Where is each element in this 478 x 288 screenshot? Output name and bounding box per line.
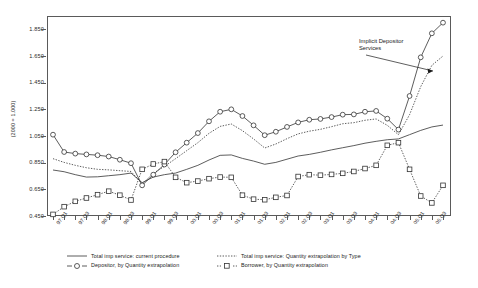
- legend-key-solid-line: [66, 252, 88, 260]
- data-point-marker: [140, 183, 145, 188]
- data-point-marker: [385, 116, 390, 121]
- data-point-marker: [441, 183, 446, 188]
- data-point-marker: [363, 109, 368, 114]
- series-0: [53, 125, 443, 183]
- data-point-marker: [218, 175, 223, 180]
- data-point-marker: [195, 131, 200, 136]
- chart-legend: Total imp service: current procedureTota…: [66, 252, 406, 280]
- data-point-marker: [285, 125, 290, 130]
- data-point-marker: [151, 162, 156, 167]
- data-point-marker: [407, 94, 412, 99]
- data-point-marker: [274, 195, 279, 200]
- data-point-marker: [329, 115, 334, 120]
- data-point-marker: [273, 129, 278, 134]
- data-point-marker: [340, 112, 345, 117]
- data-point-marker: [340, 171, 345, 176]
- series-line: [53, 125, 443, 183]
- data-point-marker: [251, 123, 256, 128]
- data-point-marker: [418, 194, 423, 199]
- data-point-marker: [307, 117, 312, 122]
- data-point-marker: [73, 151, 78, 156]
- data-point-marker: [385, 143, 390, 148]
- data-point-marker: [240, 193, 245, 198]
- data-point-marker: [396, 140, 401, 145]
- data-point-marker: [129, 198, 134, 203]
- data-point-marker: [196, 179, 201, 184]
- data-point-marker: [285, 193, 290, 198]
- legend-label: Total imp service: Quantity extrapolatio…: [241, 253, 361, 259]
- data-point-marker: [329, 172, 334, 177]
- series-1: [53, 56, 443, 184]
- annotation-implicit-depositor-services: Implicit Depositor Services: [359, 38, 403, 53]
- data-point-marker: [95, 153, 100, 158]
- data-point-marker: [184, 140, 189, 145]
- data-point-marker: [418, 55, 423, 60]
- data-point-marker: [140, 167, 145, 172]
- data-point-marker: [262, 197, 267, 202]
- data-point-marker: [240, 114, 245, 119]
- chart-page: 1.8501.6501.4501.2501.0500.8500.6500.450…: [0, 0, 478, 288]
- data-point-marker: [352, 169, 357, 174]
- data-point-marker: [218, 109, 223, 114]
- data-point-marker: [207, 176, 212, 181]
- data-point-marker: [162, 159, 167, 164]
- data-point-marker: [73, 199, 78, 204]
- data-point-marker: [363, 166, 368, 171]
- legend-key-dotted-line-square: [216, 262, 238, 270]
- data-point-marker: [173, 175, 178, 180]
- data-point-marker: [173, 150, 178, 155]
- data-point-marker: [129, 161, 134, 166]
- data-point-marker: [62, 204, 67, 209]
- annotation-line-1: Implicit Depositor: [359, 38, 403, 45]
- series-line: [53, 143, 443, 215]
- legend-label: Borrower, by Quantity extrapolation: [241, 262, 328, 268]
- legend-label: Total imp service: current procedure: [91, 253, 180, 259]
- data-point-marker: [95, 192, 100, 197]
- data-point-marker: [318, 117, 323, 122]
- series-line: [53, 56, 443, 184]
- data-point-marker: [51, 132, 56, 137]
- data-point-marker: [318, 173, 323, 178]
- data-point-marker: [229, 107, 234, 112]
- data-point-marker: [229, 175, 234, 180]
- data-point-marker: [106, 154, 111, 159]
- annotation-arrowhead: [428, 69, 434, 74]
- legend-key-dotted-line: [216, 252, 238, 260]
- data-point-marker: [351, 112, 356, 117]
- data-point-marker: [307, 172, 312, 177]
- data-point-marker: [374, 163, 379, 168]
- data-point-marker: [84, 196, 89, 201]
- series-canvas: [0, 0, 478, 288]
- data-point-marker: [106, 189, 111, 194]
- legend-label: Depositor, by Quantity extrapolation: [91, 262, 179, 268]
- series-3: [51, 140, 446, 216]
- data-point-marker: [84, 152, 89, 157]
- data-point-marker: [430, 201, 435, 206]
- data-point-marker: [396, 127, 401, 132]
- data-point-marker: [296, 174, 301, 179]
- data-point-marker: [374, 109, 379, 114]
- data-point-marker: [407, 167, 412, 172]
- data-point-marker: [151, 172, 156, 177]
- data-point-marker: [429, 31, 434, 36]
- data-point-marker: [117, 157, 122, 162]
- legend-key-solid-line-circle: [66, 262, 88, 270]
- annotation-line-2: Services: [359, 45, 403, 52]
- data-point-marker: [441, 20, 446, 25]
- data-point-marker: [251, 197, 256, 202]
- data-point-marker: [51, 212, 56, 217]
- data-point-marker: [262, 133, 267, 138]
- data-point-marker: [62, 150, 67, 155]
- data-point-marker: [118, 193, 123, 198]
- data-point-marker: [184, 180, 189, 185]
- data-point-marker: [296, 120, 301, 125]
- data-point-marker: [207, 119, 212, 124]
